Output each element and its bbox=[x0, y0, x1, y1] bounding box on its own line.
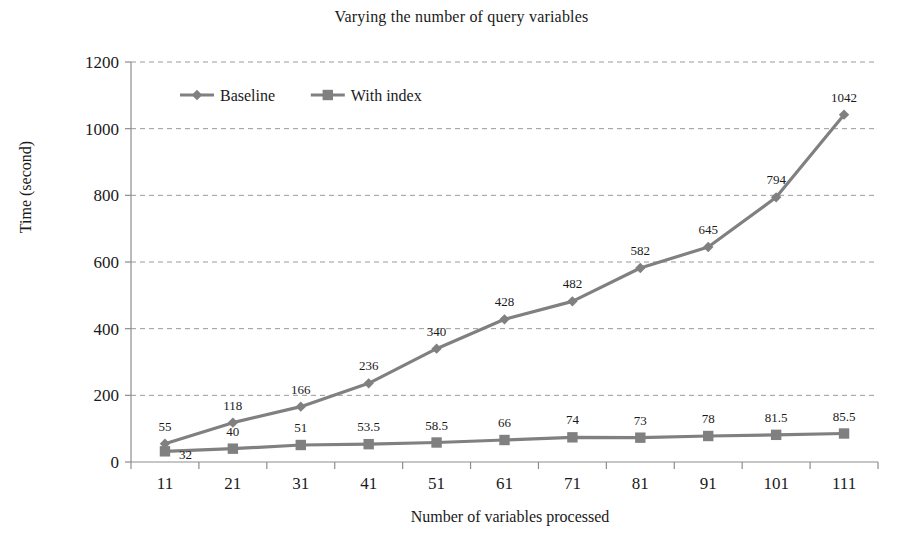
x-tick-label: 21 bbox=[224, 474, 241, 493]
data-point-label: 1042 bbox=[831, 90, 857, 105]
y-tick-labels-group: 020040060080010001200 bbox=[85, 53, 119, 472]
data-point-label: 81.5 bbox=[765, 410, 788, 425]
x-tick-label: 111 bbox=[832, 474, 856, 493]
x-tick-label: 41 bbox=[360, 474, 377, 493]
legend-label-with-index: With index bbox=[351, 87, 422, 104]
data-point-label: 645 bbox=[698, 222, 718, 237]
legend-label-baseline: Baseline bbox=[220, 87, 275, 104]
data-point-marker bbox=[771, 430, 781, 440]
y-tick-label: 1000 bbox=[85, 120, 119, 139]
data-point-label: 794 bbox=[766, 172, 786, 187]
data-point-marker bbox=[363, 439, 373, 449]
series-line-baseline bbox=[165, 115, 844, 444]
x-tick-label: 91 bbox=[700, 474, 717, 493]
data-point-marker bbox=[228, 443, 238, 453]
y-tick-label: 400 bbox=[94, 320, 120, 339]
legend: BaselineWith index bbox=[180, 87, 422, 104]
data-point-label: 53.5 bbox=[357, 419, 380, 434]
plot-area: 020040060080010001200 112131415161718191… bbox=[0, 0, 923, 547]
data-point-label: 74 bbox=[566, 412, 580, 427]
y-tick-label: 600 bbox=[94, 253, 120, 272]
data-point-marker bbox=[160, 446, 170, 456]
series-group bbox=[160, 109, 849, 456]
y-tick-label: 200 bbox=[94, 386, 120, 405]
data-point-label: 51 bbox=[294, 420, 307, 435]
data-point-marker bbox=[567, 296, 577, 306]
data-point-label: 40 bbox=[226, 424, 239, 439]
x-tick-label: 81 bbox=[632, 474, 649, 493]
data-point-marker bbox=[431, 437, 441, 447]
legend-marker-diamond-icon bbox=[192, 90, 202, 100]
y-tick-label: 800 bbox=[94, 186, 120, 205]
data-point-label: 73 bbox=[634, 413, 647, 428]
x-tick-label: 71 bbox=[564, 474, 581, 493]
x-tick-label: 51 bbox=[428, 474, 445, 493]
legend-marker-square-icon bbox=[323, 90, 333, 100]
x-tick-label: 11 bbox=[157, 474, 173, 493]
data-point-label: 55 bbox=[158, 419, 171, 434]
data-point-marker bbox=[839, 428, 849, 438]
data-point-label: 428 bbox=[495, 294, 515, 309]
x-tick-label: 31 bbox=[292, 474, 309, 493]
y-tick-label: 1200 bbox=[85, 53, 119, 72]
data-point-label: 118 bbox=[223, 398, 242, 413]
data-point-label: 78 bbox=[702, 411, 715, 426]
y-tick-label: 0 bbox=[111, 453, 120, 472]
data-point-marker bbox=[635, 432, 645, 442]
data-point-label: 85.5 bbox=[833, 409, 856, 424]
data-point-marker bbox=[567, 432, 577, 442]
x-tick-labels-group: 112131415161718191101111 bbox=[157, 474, 856, 493]
data-point-label: 66 bbox=[498, 415, 512, 430]
data-labels-group: 5511816623634042848258264579410423240515… bbox=[158, 90, 857, 463]
chart-figure: Varying the number of query variables Ti… bbox=[0, 0, 923, 547]
data-point-label: 482 bbox=[563, 276, 583, 291]
data-point-label: 340 bbox=[427, 324, 447, 339]
data-point-marker bbox=[296, 440, 306, 450]
data-point-label: 32 bbox=[179, 447, 192, 462]
data-point-label: 166 bbox=[291, 382, 311, 397]
data-point-marker bbox=[296, 401, 306, 411]
data-point-marker bbox=[499, 435, 509, 445]
data-point-label: 236 bbox=[359, 358, 379, 373]
data-point-marker bbox=[635, 263, 645, 273]
x-tick-label: 61 bbox=[496, 474, 513, 493]
data-point-marker bbox=[703, 431, 713, 441]
data-point-label: 58.5 bbox=[425, 418, 448, 433]
data-point-marker bbox=[499, 314, 509, 324]
x-tick-label: 101 bbox=[763, 474, 789, 493]
gridlines-group bbox=[131, 62, 878, 395]
data-point-label: 582 bbox=[631, 243, 651, 258]
